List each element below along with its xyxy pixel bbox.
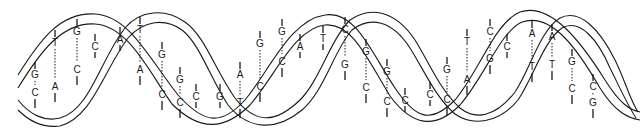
base-bottom: A	[464, 74, 471, 85]
base-partial: C	[91, 41, 98, 52]
base-partial: C	[192, 91, 199, 102]
base-top: G	[383, 66, 391, 77]
base-bottom: C	[362, 82, 369, 93]
backbone-strands	[18, 10, 640, 126]
base-bottom: T	[237, 97, 243, 108]
base-pair: A	[297, 34, 304, 58]
base-bottom: G	[486, 53, 494, 64]
base-bottom: A	[52, 81, 59, 92]
base-partial: C	[401, 95, 408, 106]
base-pair: GC	[176, 67, 184, 118]
base-pair: TA	[52, 30, 59, 102]
base-top: C	[341, 24, 348, 35]
base-partial: A	[297, 41, 304, 52]
base-pair: AT	[549, 24, 556, 80]
base-pair: GC	[568, 49, 576, 104]
base-partial: T	[320, 33, 326, 44]
base-top: G	[278, 26, 286, 37]
base-partial: C	[426, 89, 433, 100]
base-pair: GC	[158, 42, 166, 110]
dna-double-helix-diagram: GCTAGCCATAGCGCCGATGCGCATCGGCGCCCGCTACGCA…	[0, 0, 644, 129]
base-bottom: G	[341, 59, 349, 70]
base-bottom: C	[256, 81, 263, 92]
base-bottom: C	[443, 94, 450, 105]
base-top: G	[443, 64, 451, 75]
base-top: C	[589, 81, 596, 92]
base-pair: GC	[31, 62, 39, 108]
base-pair: GC	[73, 19, 81, 85]
base-bottom: C	[158, 89, 165, 100]
backbone-strand-a-inner	[18, 20, 640, 124]
base-bottom: C	[176, 97, 183, 108]
base-pair: C	[91, 34, 98, 58]
base-bottom: C	[31, 87, 38, 98]
base-partial: G	[216, 91, 224, 102]
base-top: G	[31, 69, 39, 80]
base-pair: C	[401, 88, 408, 112]
base-bottom: C	[568, 83, 575, 94]
base-bottom: T	[549, 59, 555, 70]
base-top: G	[362, 46, 370, 57]
base-pair: TA	[464, 29, 471, 95]
base-top: G	[158, 49, 166, 60]
base-top: G	[256, 38, 264, 49]
base-top: C	[486, 26, 493, 37]
base-top: G	[73, 26, 81, 37]
base-pair: TA	[137, 17, 144, 85]
base-pair: GC	[383, 59, 391, 117]
base-partial: C	[503, 41, 510, 52]
base-pair: GC	[362, 39, 370, 103]
base-pair: AT	[237, 62, 244, 118]
base-bottom: A	[137, 64, 144, 75]
base-bottom: T	[529, 61, 535, 72]
base-pair: CG	[486, 19, 494, 74]
base-pair: GC	[443, 57, 451, 115]
base-pair: T	[320, 26, 326, 50]
base-partial: A	[117, 34, 124, 45]
base-top: A	[529, 28, 536, 39]
base-top: G	[176, 74, 184, 85]
base-bottom: G	[589, 97, 597, 108]
base-top: T	[464, 36, 470, 47]
base-bottom: C	[278, 56, 285, 67]
base-pair: CG	[589, 74, 597, 118]
base-bottom: C	[383, 96, 390, 107]
base-top: T	[52, 37, 58, 48]
base-top: G	[568, 56, 576, 67]
base-pair: GC	[256, 31, 264, 102]
base-pair: GC	[278, 19, 286, 77]
base-pair: C	[192, 84, 199, 108]
base-top: A	[237, 69, 244, 80]
base-top: A	[549, 31, 556, 42]
base-bottom: C	[73, 64, 80, 75]
base-top: T	[137, 24, 143, 35]
base-pair: CG	[341, 17, 349, 80]
